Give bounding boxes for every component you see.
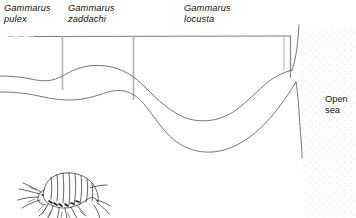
amphipod-segment-5 xyxy=(74,174,76,205)
amphipod-head xyxy=(38,190,46,205)
amphipod-segment-7 xyxy=(86,179,88,202)
species-label-pulex-epithet: pulex xyxy=(4,14,27,24)
estuary-south-bank xyxy=(0,82,296,152)
open-sea-stipple xyxy=(293,26,356,218)
figure-canvas: Gammaruspulex Gammaruszaddachi Gammarusl… xyxy=(0,0,356,218)
coastline-north-flare xyxy=(292,25,299,70)
species-label-zaddachi-epithet: zaddachi xyxy=(68,14,106,24)
open-sea-label-line2: sea xyxy=(325,105,340,115)
amphipod-antenna-2 xyxy=(18,197,39,200)
amphipod-illustration xyxy=(18,173,110,218)
species-label-locusta-genus: Gammarus xyxy=(184,3,231,13)
amphipod-leg-4 xyxy=(65,208,67,218)
amphipod-leg-1 xyxy=(39,204,48,216)
amphipod-leg-2 xyxy=(47,206,53,218)
zone-axis xyxy=(8,36,291,100)
amphipod-leg-5 xyxy=(71,207,77,218)
estuary-diagram-svg xyxy=(0,0,356,218)
species-label-zaddachi-genus: Gammarus xyxy=(68,3,115,13)
species-label-gammarus-zaddachi: Gammaruszaddachi xyxy=(68,3,115,25)
amphipod-uropod-2 xyxy=(97,203,109,214)
species-label-locusta-epithet: locusta xyxy=(184,14,214,24)
amphipod-eye xyxy=(41,194,43,196)
species-label-pulex-genus: Gammarus xyxy=(4,3,51,13)
amphipod-segment-2 xyxy=(57,175,58,202)
amphipod-leg-3 xyxy=(56,208,59,218)
amphipod-segment-1 xyxy=(51,177,52,199)
zone-axis-baseline xyxy=(34,36,291,37)
amphipod-segment-3 xyxy=(63,173,64,203)
estuary-channel xyxy=(0,25,302,158)
species-label-gammarus-pulex: Gammaruspulex xyxy=(4,3,51,25)
amphipod-segment-4 xyxy=(69,173,70,205)
open-sea-label-line1: Open xyxy=(325,94,348,104)
estuary-north-bank xyxy=(0,65,292,120)
open-sea-label: Opensea xyxy=(325,94,348,116)
amphipod-leg-6 xyxy=(77,205,86,216)
amphipod-segment-8 xyxy=(92,183,93,201)
amphipod-segment-6 xyxy=(80,176,82,204)
species-label-gammarus-locusta: Gammaruslocusta xyxy=(184,3,231,25)
amphipod-antenna-4 xyxy=(22,200,40,208)
amphipod-uropod-3 xyxy=(94,205,100,218)
